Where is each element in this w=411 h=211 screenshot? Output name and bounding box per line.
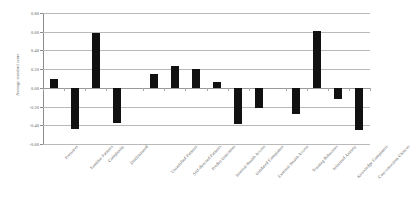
bar — [113, 88, 121, 124]
bar — [71, 88, 79, 129]
bar — [171, 66, 179, 88]
bar — [192, 69, 200, 88]
bar — [334, 88, 342, 99]
y-axis-title: Average standard score — [15, 27, 20, 123]
bar — [313, 31, 321, 88]
y-axis-tick-label: 0.80 — [31, 11, 39, 16]
x-axis-tick-label: Internal Health Access — [234, 144, 266, 178]
x-axis-labels-group: PressuresFamiliar PatientsComplexityDisi… — [43, 144, 370, 211]
bar — [234, 88, 242, 124]
bar — [355, 88, 363, 130]
bars-group — [43, 13, 370, 144]
x-axis-tick-label: Pressures — [63, 144, 78, 160]
y-axis-tick-label: -0.60 — [29, 142, 39, 147]
y-axis-tick-label: 0.40 — [31, 48, 39, 53]
bar — [255, 88, 263, 109]
y-axis-tick-label: -0.40 — [29, 123, 39, 128]
y-axis-tick-label: -0.20 — [29, 104, 39, 109]
bar — [213, 82, 221, 88]
bar — [150, 74, 158, 88]
y-axis-tick-label: 0.60 — [31, 29, 39, 34]
bar — [92, 33, 100, 88]
y-axis-tick-label: 0.00 — [31, 85, 39, 90]
x-axis-tick-label: Disillusioned — [129, 144, 149, 165]
y-axis-tick-label: 0.20 — [31, 67, 39, 72]
x-axis-minor-tick — [370, 88, 371, 91]
bar — [292, 88, 300, 114]
plot-area: 0.800.600.400.200.00-0.20-0.40-0.60 — [43, 13, 370, 144]
bar — [50, 79, 58, 88]
